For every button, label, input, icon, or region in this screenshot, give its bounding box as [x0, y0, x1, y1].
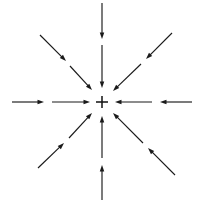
- vector-field-canvas: [0, 0, 202, 205]
- vector-arrow-northwest-outer: [40, 35, 66, 61]
- arrow-head: [100, 165, 105, 172]
- arrow-shaft: [69, 117, 89, 138]
- arrow-head: [100, 116, 105, 123]
- center-marker: [96, 96, 108, 108]
- vector-arrow-north-inner: [100, 45, 105, 88]
- arrow-shaft: [116, 116, 143, 143]
- arrow-shaft: [117, 64, 141, 88]
- vector-arrow-southeast-outer: [148, 148, 175, 175]
- vector-arrow-southwest-outer: [38, 143, 64, 168]
- vector-arrow-southeast-inner: [113, 113, 143, 143]
- arrow-head: [100, 82, 105, 89]
- vector-arrow-east-inner: [115, 100, 152, 105]
- arrow-shaft: [151, 151, 175, 175]
- vector-arrow-west-outer: [12, 100, 44, 105]
- vector-field-figure: [0, 0, 202, 205]
- vector-arrow-northeast-inner: [113, 64, 141, 91]
- vector-arrow-west-inner: [52, 100, 90, 105]
- arrow-head: [38, 100, 45, 105]
- vector-arrow-south-inner: [100, 116, 105, 158]
- vector-arrow-north-outer: [100, 3, 105, 39]
- vector-arrow-northwest-inner: [70, 66, 92, 90]
- arrow-shaft: [40, 35, 63, 58]
- arrow-shaft: [149, 33, 172, 56]
- arrow-head: [115, 100, 122, 105]
- vector-arrow-south-outer: [100, 165, 105, 200]
- vector-arrow-northeast-outer: [146, 33, 172, 59]
- vector-arrow-east-outer: [160, 100, 192, 105]
- arrow-shaft: [38, 146, 60, 168]
- arrow-head: [160, 100, 167, 105]
- arrow-head: [84, 100, 91, 105]
- arrow-shaft: [70, 66, 89, 86]
- arrow-head: [100, 33, 105, 40]
- vector-arrow-southwest-inner: [69, 113, 92, 138]
